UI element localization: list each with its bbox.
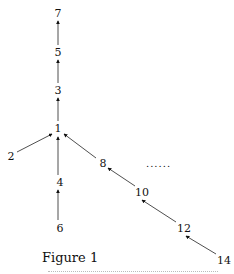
ellipsis: ...... xyxy=(146,158,171,169)
edge-8-1 xyxy=(64,134,96,158)
node-14: 14 xyxy=(217,255,231,266)
node-1: 1 xyxy=(55,123,62,134)
node-5: 5 xyxy=(55,47,62,58)
node-3: 3 xyxy=(55,85,62,96)
edge-10-8 xyxy=(108,168,135,186)
edge-14-12 xyxy=(186,236,216,254)
figure-caption: Figure 1 xyxy=(42,250,98,265)
node-6: 6 xyxy=(57,223,64,234)
edge-2-1 xyxy=(17,134,52,152)
node-2: 2 xyxy=(8,151,15,162)
node-12: 12 xyxy=(177,223,191,234)
edge-12-10 xyxy=(142,200,176,222)
node-8: 8 xyxy=(100,158,107,169)
node-4: 4 xyxy=(57,177,64,188)
node-7: 7 xyxy=(55,8,62,19)
node-10: 10 xyxy=(135,187,149,198)
tree-diagram-edges xyxy=(0,0,234,274)
